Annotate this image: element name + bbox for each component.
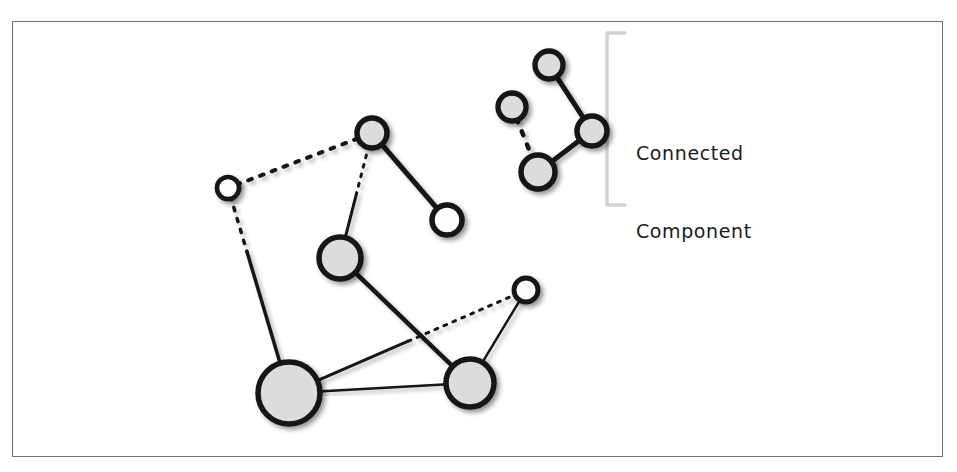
graph-node bbox=[521, 155, 555, 189]
graph-edge bbox=[380, 143, 438, 210]
graph-node bbox=[357, 118, 387, 148]
graph-node bbox=[319, 237, 361, 279]
graph-edge bbox=[236, 138, 359, 185]
graph-node bbox=[446, 359, 494, 407]
graph-edge bbox=[556, 75, 585, 120]
node-layer bbox=[217, 51, 607, 424]
graph-node bbox=[514, 278, 538, 302]
connected-component-bracket bbox=[607, 33, 625, 205]
connected-component-label: Connected Component bbox=[636, 88, 752, 296]
graph-edge bbox=[550, 139, 582, 163]
graph-node bbox=[217, 177, 239, 199]
cc-label-line1: Connected bbox=[636, 140, 752, 166]
graph-node bbox=[258, 362, 320, 424]
graph-node bbox=[498, 93, 526, 121]
graph-edge bbox=[354, 271, 454, 368]
graph-edge bbox=[481, 299, 520, 365]
figure-root: Connected Component bbox=[0, 0, 957, 472]
bracket-path bbox=[607, 33, 625, 205]
graph-canvas bbox=[0, 0, 957, 472]
graph-edge bbox=[231, 197, 281, 366]
graph-node bbox=[432, 205, 462, 235]
graph-edge bbox=[516, 118, 532, 158]
graph-node bbox=[535, 51, 563, 79]
graph-node bbox=[577, 116, 607, 146]
graph-edge bbox=[318, 384, 448, 391]
edge-layer bbox=[231, 75, 585, 391]
cc-label-line2: Component bbox=[636, 218, 752, 244]
bottom-cut-caption bbox=[8, 460, 948, 472]
graph-edge bbox=[345, 146, 369, 240]
